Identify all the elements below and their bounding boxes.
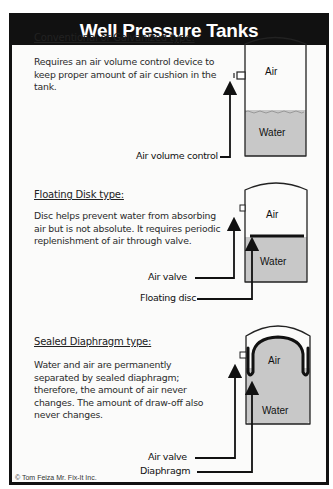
section-title-floating-disk: Floating Disk type: xyxy=(34,189,124,200)
callout-air-volume-control: Air volume control xyxy=(136,150,218,161)
section-desc-sealed-diaphragm: Water and air are permanently separated … xyxy=(34,359,212,422)
callout-floating-disc: Floating disc xyxy=(140,292,196,303)
air-volume-control-valve xyxy=(237,72,245,79)
section-desc-conventional: Requires an air volume control device to… xyxy=(34,56,226,94)
section-title-conventional: Conventional or Galvanized type: xyxy=(34,32,195,43)
water-label: Water xyxy=(260,256,286,267)
air-valve xyxy=(240,205,245,211)
callout-air-valve: Air valve xyxy=(148,271,187,282)
water-label: Water xyxy=(259,127,285,138)
callout-diaphragm: Diaphragm xyxy=(140,465,190,476)
callout-air-valve: Air valve xyxy=(148,451,187,462)
conventional-tank xyxy=(220,38,306,158)
copyright-credit: © Tom Feiza Mr. Fix-It Inc. xyxy=(15,474,97,481)
air-valve xyxy=(240,352,246,358)
section-title-sealed-diaphragm: Sealed Diaphragm type: xyxy=(34,336,151,347)
air-label: Air xyxy=(266,209,278,220)
air-label: Air xyxy=(268,355,280,366)
water-label: Water xyxy=(262,405,288,416)
sealed-diaphragm-tank xyxy=(195,326,310,472)
diagram-frame: Well Pressure Tanks xyxy=(9,13,329,485)
section-desc-floating-disk: Disc helps prevent water from absorbing … xyxy=(34,210,230,248)
air-label: Air xyxy=(265,66,277,77)
